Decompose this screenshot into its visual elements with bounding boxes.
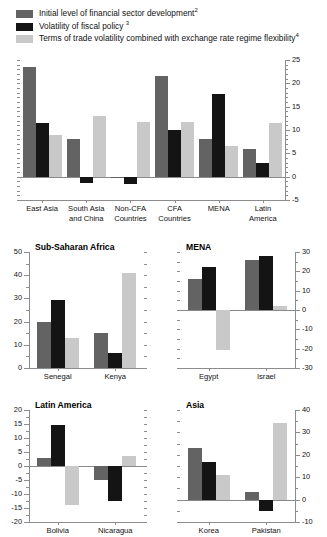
- y-minor-tick: [177, 349, 180, 350]
- bar: [94, 333, 108, 368]
- panel-title: MENA: [186, 242, 211, 252]
- y-minor-tick: [177, 421, 180, 422]
- y-minor-tick: [17, 83, 20, 84]
- chart-panel-mena: MENA-30-20-100102030EgyptIsrael: [163, 238, 327, 386]
- x-tick: [263, 200, 264, 203]
- y-axis-line: [29, 252, 30, 368]
- y-minor-tick: [144, 431, 147, 432]
- x-tick: [42, 200, 43, 203]
- y-tick-label: 20: [302, 450, 310, 459]
- bar: [259, 256, 273, 310]
- y-minor-tick: [177, 339, 180, 340]
- bar: [108, 466, 122, 501]
- y-tick-label: -10: [302, 517, 313, 526]
- y-minor-tick: [144, 522, 147, 523]
- bar: [212, 94, 225, 177]
- y-major-tick: [295, 271, 300, 272]
- y-minor-tick: [17, 107, 20, 108]
- bar: [23, 67, 36, 177]
- y-minor-tick: [17, 177, 20, 178]
- legend-label-series2: Volatility of fiscal policy 3: [39, 21, 129, 32]
- y-tick-label: 25: [292, 55, 300, 64]
- y-minor-tick: [144, 275, 147, 276]
- y-minor-tick: [285, 135, 288, 136]
- y-major-tick: [285, 200, 290, 201]
- y-minor-tick: [17, 97, 20, 98]
- y-tick-label: 15: [0, 419, 22, 428]
- bar: [216, 475, 230, 500]
- y-minor-tick: [26, 431, 29, 432]
- y-minor-tick: [177, 522, 180, 523]
- y-minor-tick: [17, 74, 20, 75]
- bar: [202, 462, 216, 500]
- y-minor-tick: [144, 345, 147, 346]
- legend: Initial level of financial sector develo…: [16, 8, 321, 46]
- y-minor-tick: [285, 65, 288, 66]
- y-minor-tick: [285, 149, 288, 150]
- y-axis-line: [29, 410, 30, 522]
- bar: [202, 267, 216, 310]
- y-tick-label: 5: [292, 148, 296, 157]
- y-major-tick: [24, 322, 29, 323]
- footnote-marker: 3: [126, 20, 129, 26]
- y-minor-tick: [177, 477, 180, 478]
- y-major-tick: [295, 349, 300, 350]
- x-category-label: Nicaragua: [70, 526, 160, 535]
- y-major-tick: [24, 275, 29, 276]
- y-minor-tick: [144, 508, 147, 509]
- y-tick-label: 0: [0, 363, 22, 372]
- chart-panel-main: -50510152025East AsiaSouth Asiaand China…: [0, 56, 327, 218]
- y-minor-tick: [295, 320, 298, 321]
- bar: [243, 149, 256, 177]
- y-major-tick: [285, 107, 290, 108]
- y-tick-label: -10: [0, 489, 22, 498]
- y-tick-label: 10: [0, 340, 22, 349]
- y-minor-tick: [177, 271, 180, 272]
- legend-swatch-series1: [16, 10, 33, 18]
- panel-title: Asia: [186, 400, 204, 410]
- x-axis-line: [29, 368, 144, 369]
- y-minor-tick: [17, 125, 20, 126]
- y-minor-tick: [17, 191, 20, 192]
- bar: [168, 130, 181, 177]
- y-minor-tick: [295, 444, 298, 445]
- bar: [155, 76, 168, 176]
- y-minor-tick: [177, 329, 180, 330]
- y-minor-tick: [17, 195, 20, 196]
- y-major-tick: [24, 410, 29, 411]
- y-minor-tick: [26, 333, 29, 334]
- y-minor-tick: [144, 322, 147, 323]
- y-minor-tick: [144, 445, 147, 446]
- y-minor-tick: [285, 144, 288, 145]
- y-tick-label: 10: [302, 286, 310, 295]
- y-major-tick: [295, 252, 300, 253]
- y-minor-tick: [295, 262, 298, 263]
- x-category-label: Israel: [221, 372, 311, 381]
- baseline: [20, 177, 285, 178]
- y-minor-tick: [144, 515, 147, 516]
- x-tick: [266, 368, 267, 371]
- y-minor-tick: [144, 438, 147, 439]
- y-major-tick: [295, 410, 300, 411]
- y-minor-tick: [144, 452, 147, 453]
- y-minor-tick: [17, 163, 20, 164]
- y-minor-tick: [26, 501, 29, 502]
- y-major-tick: [285, 177, 290, 178]
- bar: [181, 122, 194, 177]
- y-minor-tick: [17, 144, 20, 145]
- y-minor-tick: [144, 310, 147, 311]
- bar: [93, 116, 106, 177]
- y-minor-tick: [17, 167, 20, 168]
- y-minor-tick: [285, 186, 288, 187]
- y-minor-tick: [285, 97, 288, 98]
- bar: [37, 322, 51, 368]
- y-minor-tick: [26, 264, 29, 265]
- y-minor-tick: [17, 79, 20, 80]
- y-major-tick: [295, 477, 300, 478]
- x-tick: [175, 200, 176, 203]
- legend-label-series3: Terms of trade volatility combined with …: [39, 33, 299, 44]
- y-major-tick: [295, 329, 300, 330]
- y-major-tick: [295, 310, 300, 311]
- bar: [65, 466, 79, 505]
- y-tick-label: -5: [292, 195, 299, 204]
